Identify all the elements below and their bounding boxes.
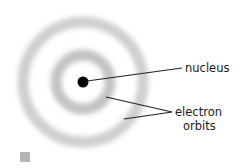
electron-orbits-label-line1: electron (175, 105, 222, 119)
electron-orbits-label-line2: orbits (183, 119, 216, 133)
nucleus-label: nucleus (185, 61, 229, 75)
gray-square-marker (20, 152, 30, 162)
nucleus (78, 77, 89, 88)
atom-diagram: nucleus electron orbits (0, 0, 245, 168)
